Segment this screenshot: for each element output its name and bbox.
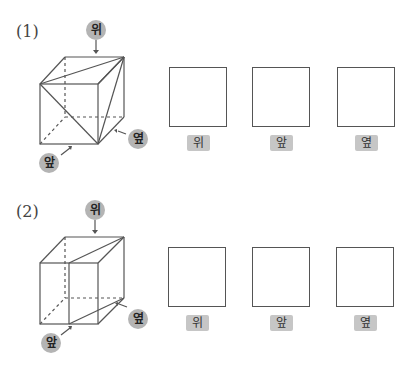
problem-2: (2) — [0, 180, 417, 360]
answer-label-front: 앞 — [270, 135, 293, 151]
problem-1: (1) — [0, 0, 417, 180]
answer-box-front[interactable] — [252, 247, 310, 307]
answer-box-top[interactable] — [169, 67, 227, 127]
answer-label-front: 앞 — [270, 315, 293, 331]
answer-label-side: 옆 — [355, 135, 378, 151]
side-view-marker: 옆 — [128, 309, 148, 329]
front-view-marker: 앞 — [39, 153, 59, 173]
answer-label-top: 위 — [187, 135, 210, 151]
answer-box-front[interactable] — [252, 67, 310, 127]
answer-box-side[interactable] — [337, 67, 395, 127]
front-view-marker: 앞 — [41, 333, 61, 353]
answer-box-side[interactable] — [336, 247, 394, 307]
answer-box-top[interactable] — [168, 247, 226, 307]
top-view-marker: 위 — [86, 20, 106, 40]
top-view-marker: 위 — [85, 200, 105, 220]
side-view-marker: 옆 — [128, 129, 148, 149]
answer-label-top: 위 — [186, 315, 209, 331]
cube-figure-1 — [0, 0, 170, 180]
answer-label-side: 옆 — [354, 315, 377, 331]
